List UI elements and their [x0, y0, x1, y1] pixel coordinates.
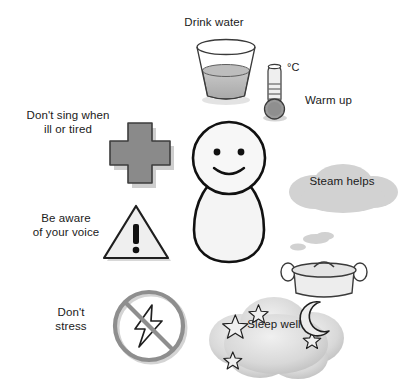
drink-water-label: Drink water: [166, 15, 262, 29]
steam-cloud-icon: [281, 160, 405, 218]
no-stress-prohibition-icon: [108, 285, 190, 367]
person-figure-icon: [176, 118, 282, 266]
glass-of-water-icon: [189, 40, 263, 106]
dont-stress-label: Don't stress: [28, 305, 114, 333]
sleep-well-label: Sleep well: [235, 317, 313, 331]
warning-triangle-icon: [100, 200, 174, 266]
warm-up-label: Warm up: [305, 93, 385, 107]
sleep-cloud-icon: [200, 288, 360, 388]
steam-helps-label: Steam helps: [294, 174, 390, 188]
thermometer-icon: [258, 62, 298, 124]
medical-cross-icon: [104, 117, 176, 189]
voice-care-poster: Drink water °C Warm up: [0, 0, 413, 392]
